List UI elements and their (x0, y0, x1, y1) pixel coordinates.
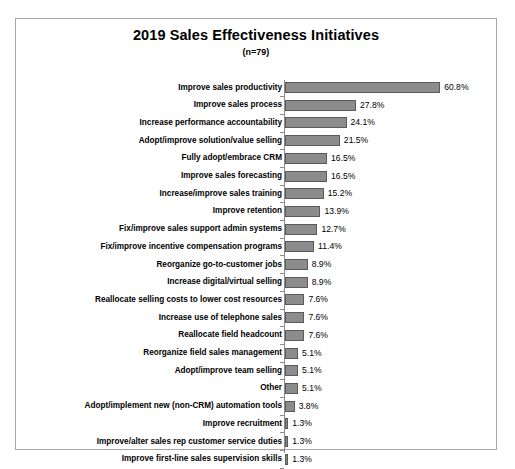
bar (285, 224, 317, 235)
chart-subtitle: (n=79) (16, 47, 496, 57)
bar-row: Increase performance accountability24.1% (16, 114, 498, 132)
bar-value-label: 5.1% (302, 365, 322, 376)
bar-value-label: 8.9% (312, 259, 332, 270)
category-label: Increase digital/virtual selling (167, 276, 282, 287)
bar-value-label: 7.6% (308, 312, 328, 323)
category-label: Other (260, 382, 282, 393)
bar-row: Reorganize field sales management5.1% (16, 345, 498, 363)
bar (285, 171, 327, 182)
bar (285, 153, 327, 164)
bar-row: Improve recruitment1.3% (16, 415, 498, 433)
bar-row: Reallocate field headcount7.6% (16, 327, 498, 345)
chart-frame: 2019 Sales Effectiveness Initiatives (n=… (15, 18, 497, 450)
bar-value-label: 12.7% (321, 224, 345, 235)
bar (285, 277, 308, 288)
bar (285, 82, 440, 93)
category-label: Fix/improve sales support admin systems (119, 223, 282, 234)
bar-value-label: 13.9% (324, 206, 348, 217)
category-label: Adopt/improve team selling (175, 365, 282, 376)
bar (285, 348, 298, 359)
category-label: Fix/improve incentive compensation progr… (100, 241, 282, 252)
bar (285, 259, 308, 270)
bar-row: Fix/improve incentive compensation progr… (16, 238, 498, 256)
category-label: Improve retention (213, 205, 282, 216)
bar-value-label: 60.8% (444, 82, 468, 93)
bar-row: Improve retention13.9% (16, 203, 498, 221)
bar-row: Reallocate selling costs to lower cost r… (16, 291, 498, 309)
bar-row: Adopt/improve team selling5.1% (16, 362, 498, 380)
category-label: Increase use of telephone sales (159, 312, 282, 323)
bar-value-label: 1.3% (292, 418, 312, 429)
category-label: Fully adopt/embrace CRM (181, 152, 282, 163)
bar-row: Increase use of telephone sales7.6% (16, 309, 498, 327)
bar (285, 135, 340, 146)
bar-row: Improve sales forecasting16.5% (16, 168, 498, 186)
bar-row: Fix/improve sales support admin systems1… (16, 221, 498, 239)
bar-value-label: 5.1% (302, 383, 322, 394)
category-label: Improve first-line sales supervision ski… (122, 453, 282, 464)
category-label: Reallocate field headcount (178, 329, 282, 340)
bar-row: Improve sales process27.8% (16, 97, 498, 115)
bar-row: Increase digital/virtual selling8.9% (16, 274, 498, 292)
category-label: Improve/alter sales rep customer service… (97, 436, 282, 447)
bar (285, 312, 304, 323)
category-label: Increase/improve sales training (160, 188, 282, 199)
bar-value-label: 15.2% (328, 188, 352, 199)
bar-value-label: 16.5% (331, 153, 355, 164)
bar-value-label: 8.9% (312, 277, 332, 288)
bar (285, 330, 304, 341)
category-label: Improve recruitment (203, 418, 282, 429)
category-label: Reorganize go-to-customer jobs (156, 259, 282, 270)
bar-value-label: 1.3% (292, 436, 312, 447)
bar-value-label: 5.1% (302, 348, 322, 359)
bar-value-label: 21.5% (344, 135, 368, 146)
bar (285, 117, 347, 128)
category-label: Increase performance accountability (140, 117, 282, 128)
bar-value-label: 7.6% (308, 294, 328, 305)
bar-row: Adopt/improve solution/value selling21.5… (16, 132, 498, 150)
bar-row: Fully adopt/embrace CRM16.5% (16, 150, 498, 168)
bar (285, 365, 298, 376)
bar-row: Increase/improve sales training15.2% (16, 185, 498, 203)
bar-row: Adopt/implement new (non-CRM) automation… (16, 398, 498, 416)
bar (285, 418, 288, 429)
bar (285, 454, 288, 465)
bar (285, 100, 356, 111)
category-label: Reallocate selling costs to lower cost r… (95, 294, 282, 305)
category-label: Adopt/improve solution/value selling (139, 135, 282, 146)
bar-value-label: 1.3% (292, 454, 312, 465)
bar-value-label: 24.1% (351, 117, 375, 128)
bar-row: Other5.1% (16, 380, 498, 398)
chart-title: 2019 Sales Effectiveness Initiatives (16, 27, 496, 43)
bar-row: Improve sales productivity60.8% (16, 79, 498, 97)
bar-value-label: 16.5% (331, 171, 355, 182)
category-label: Improve sales forecasting (181, 170, 282, 181)
category-label: Adopt/implement new (non-CRM) automation… (85, 400, 282, 411)
bar (285, 241, 314, 252)
bar-value-label: 7.6% (308, 330, 328, 341)
category-label: Reorganize field sales management (143, 347, 282, 358)
bar (285, 436, 288, 447)
bar-row: Improve/alter sales rep customer service… (16, 433, 498, 451)
bar (285, 383, 298, 394)
bar-value-label: 27.8% (360, 100, 384, 111)
category-label: Improve sales process (194, 99, 282, 110)
bar (285, 294, 304, 305)
bar-value-label: 11.4% (318, 241, 342, 252)
plot-area: Improve sales productivity60.8%Improve s… (16, 65, 498, 449)
bar-row: Reorganize go-to-customer jobs8.9% (16, 256, 498, 274)
bar (285, 401, 295, 412)
bar (285, 188, 324, 199)
bar-value-label: 3.8% (299, 401, 319, 412)
bar-row: Improve first-line sales supervision ski… (16, 451, 498, 469)
category-label: Improve sales productivity (178, 82, 282, 93)
bar (285, 206, 320, 217)
